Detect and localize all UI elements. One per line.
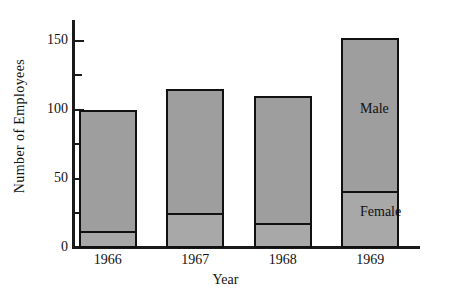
bar-segment-female-1966 [81, 231, 135, 246]
bar-segment-female-1968 [256, 223, 310, 246]
x-axis-title: Year [0, 272, 451, 288]
series-label-male: Male [360, 101, 389, 117]
x-tick-label-1969: 1969 [335, 252, 405, 268]
bar-segment-female-1967 [168, 213, 222, 246]
bar-1966 [79, 110, 137, 248]
series-label-female: Female [360, 204, 401, 220]
bar-chart-figure: 050100150 1966196719681969 Year Number o… [0, 0, 451, 298]
x-tick-label-1967: 1967 [160, 252, 230, 268]
bar-1967 [166, 89, 224, 248]
y-tick-label: 150 [30, 33, 68, 47]
x-tick-label-1966: 1966 [73, 252, 143, 268]
x-tick-label-1968: 1968 [248, 252, 318, 268]
y-tick-label: 0 [30, 240, 68, 254]
bar-1968 [254, 96, 312, 248]
y-axis-title: Number of Employees [12, 26, 28, 226]
y-tick-label: 50 [30, 171, 68, 185]
y-tick-label: 100 [30, 102, 68, 116]
